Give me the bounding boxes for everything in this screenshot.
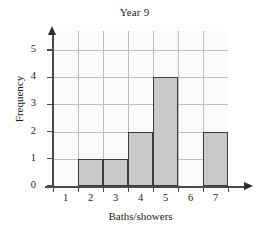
y-axis-tick xyxy=(47,104,53,105)
y-axis-tick xyxy=(47,77,53,78)
y-axis-line xyxy=(52,34,54,187)
y-axis-title: Frequency xyxy=(13,39,25,159)
y-axis-tick xyxy=(47,131,53,132)
x-axis-tick-label: 2 xyxy=(78,192,104,203)
x-axis-tick-label: 7 xyxy=(203,192,229,203)
bar-5 xyxy=(153,77,178,186)
gridline-horizontal xyxy=(53,77,228,78)
x-axis-title: Baths/showers xyxy=(53,210,228,222)
y-axis-arrow-icon xyxy=(48,26,56,35)
x-axis-tick-label: 5 xyxy=(153,192,179,203)
chart-title: Year 9 xyxy=(0,6,269,18)
bar-3 xyxy=(103,159,128,186)
gridline-vertical xyxy=(178,31,179,186)
x-axis-tick-label: 1 xyxy=(53,192,79,203)
chart-figure: Year 9 012345 1234567 Baths/showers Freq… xyxy=(0,0,269,238)
x-axis-arrow-icon xyxy=(244,182,253,190)
x-axis-tick-label: 4 xyxy=(128,192,154,203)
gridline-horizontal xyxy=(53,50,228,51)
bar-4 xyxy=(128,132,153,186)
bar-7 xyxy=(203,132,228,186)
x-axis-tick-label: 3 xyxy=(103,192,129,203)
y-axis-tick xyxy=(47,158,53,159)
x-axis-tick-label: 6 xyxy=(178,192,204,203)
bar-2 xyxy=(78,159,103,186)
y-axis-tick xyxy=(47,49,53,50)
plot-area xyxy=(53,31,228,186)
y-axis-tick-label: 0 xyxy=(20,179,36,190)
gridline-horizontal xyxy=(53,104,228,105)
x-axis-line xyxy=(45,186,245,188)
